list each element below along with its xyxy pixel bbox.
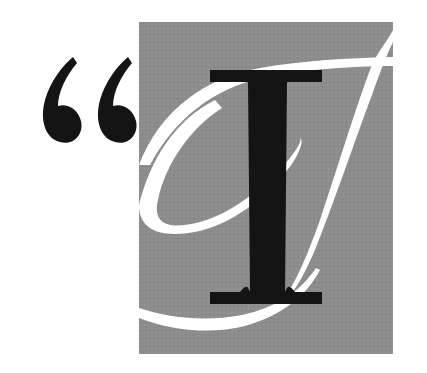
drop-cap-graphic xyxy=(0,0,427,373)
drop-cap-svg xyxy=(0,0,427,373)
opening-quote-icon xyxy=(43,57,137,143)
